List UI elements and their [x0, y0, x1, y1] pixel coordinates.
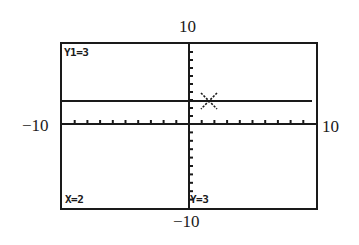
graph-canvas: [62, 44, 316, 208]
graph-screen[interactable]: Y1=3 X=2 Y=3: [60, 42, 318, 210]
y-coordinate-readout: Y=3: [190, 194, 208, 205]
function-readout: Y1=3: [64, 47, 89, 58]
x-coordinate-readout: X=2: [65, 194, 83, 205]
xmax-label: 10: [322, 118, 339, 135]
xmin-label: −10: [22, 117, 49, 134]
ymax-label: 10: [179, 18, 196, 35]
ymin-label: −10: [173, 213, 200, 230]
